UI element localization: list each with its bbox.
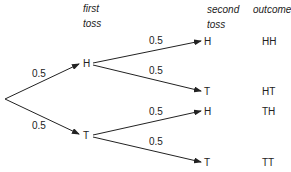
header-second-toss-line1: second (207, 4, 239, 15)
tree-diagram-lines (0, 0, 291, 172)
branch-h-to-h (93, 41, 201, 63)
header-outcome: outcome (253, 4, 291, 15)
outcome-tt: TT (262, 157, 274, 168)
node-second-h-1: H (204, 36, 211, 47)
node-second-t-2: T (204, 157, 210, 168)
node-first-t: T (83, 130, 89, 141)
branch-t-to-t (93, 137, 201, 162)
node-second-h-2: H (204, 106, 211, 117)
prob-t-h: 0.5 (149, 106, 163, 117)
prob-h-t: 0.5 (149, 65, 163, 76)
header-second-toss-line2: toss (207, 19, 225, 30)
prob-root-h: 0.5 (32, 68, 46, 79)
node-first-h: H (83, 58, 90, 69)
node-second-t-1: T (204, 86, 210, 97)
header-first-toss-line1: first (83, 3, 99, 14)
prob-h-h: 0.5 (149, 35, 163, 46)
prob-root-t: 0.5 (32, 120, 46, 131)
branch-h-to-t (93, 65, 201, 91)
branch-t-to-h (93, 111, 201, 135)
outcome-hh: HH (262, 36, 276, 47)
outcome-th: TH (262, 106, 275, 117)
header-first-toss-line2: toss (83, 18, 101, 29)
prob-t-t: 0.5 (149, 136, 163, 147)
outcome-ht: HT (262, 86, 275, 97)
